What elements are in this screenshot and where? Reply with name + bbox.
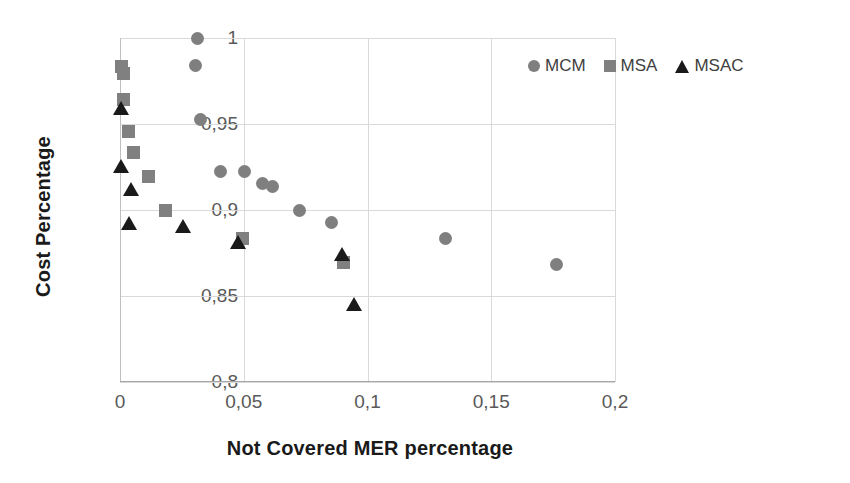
gridline-vertical (615, 38, 616, 382)
data-point-msac (123, 182, 139, 196)
data-point-msac (334, 247, 350, 261)
data-point-mcm (238, 165, 251, 178)
data-point-mcm (293, 204, 306, 217)
scatter-chart-figure: Cost Percentage Not Covered MER percenta… (0, 0, 850, 483)
data-point-msa (127, 146, 140, 159)
data-point-mcm (191, 32, 204, 45)
data-point-mcm (325, 216, 338, 229)
data-point-msa (117, 67, 130, 80)
legend-label: MSA (621, 56, 658, 76)
x-axis-tick-label: 0,05 (184, 392, 304, 411)
gridline-vertical (491, 38, 492, 382)
data-point-mcm (189, 59, 202, 72)
data-point-msac (113, 101, 129, 115)
gridline-vertical (368, 38, 369, 382)
triangle-marker-icon (675, 60, 689, 73)
gridline-horizontal (120, 382, 615, 383)
data-point-msac (346, 297, 362, 311)
y-axis-title: Cost Percentage (32, 92, 55, 342)
x-axis-line (120, 381, 615, 382)
data-point-msac (230, 235, 246, 249)
data-point-msa (122, 125, 135, 138)
legend-entry-mcm[interactable]: MCM (528, 56, 586, 76)
square-marker-icon (604, 60, 616, 72)
gridline-vertical (244, 38, 245, 382)
data-point-mcm (550, 258, 563, 271)
legend-entry-msa[interactable]: MSA (604, 56, 658, 76)
chart-legend: MCMMSAMSAC (528, 56, 744, 76)
x-axis-title: Not Covered MER percentage (0, 437, 740, 460)
y-axis-line (120, 38, 121, 382)
legend-label: MSAC (694, 56, 743, 76)
x-axis-tick-label: 0,1 (308, 392, 428, 411)
legend-entry-msac[interactable]: MSAC (675, 56, 743, 76)
data-point-msac (113, 159, 129, 173)
data-point-msa (142, 170, 155, 183)
data-point-mcm (439, 232, 452, 245)
data-point-msac (121, 216, 137, 230)
data-point-msac (175, 219, 191, 233)
legend-label: MCM (545, 56, 586, 76)
x-axis-tick-label: 0,15 (431, 392, 551, 411)
x-axis-tick-label: 0,2 (555, 392, 675, 411)
circle-marker-icon (528, 60, 540, 72)
data-point-mcm (266, 180, 279, 193)
data-point-msa (159, 204, 172, 217)
x-axis-tick-label: 0 (60, 392, 180, 411)
data-point-mcm (214, 165, 227, 178)
plot-area (120, 38, 615, 382)
